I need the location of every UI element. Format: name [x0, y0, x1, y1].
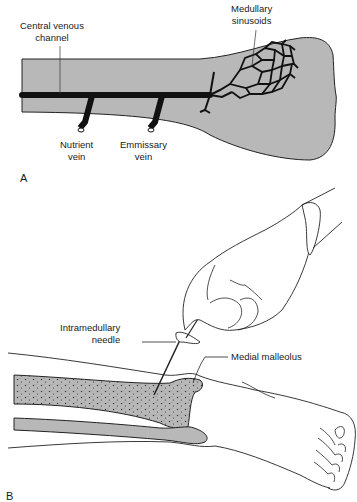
nutrient-vein-opening: [78, 128, 84, 132]
panel-label-a: A: [20, 172, 27, 184]
label-nutrient-vein: Nutrient vein: [60, 139, 93, 163]
gloved-hand: [183, 205, 311, 330]
label-intramedullary-needle: Intramedullary needle: [60, 322, 120, 346]
label-emmissary-vein: Emmissary vein: [120, 139, 167, 163]
arm-line-top: [302, 188, 335, 205]
leg-lower-outline: [8, 441, 330, 488]
label-medullary-sinusoids: Medullary sinusoids: [231, 3, 272, 27]
toes: [242, 382, 346, 482]
panel-label-b: B: [6, 490, 13, 502]
emissary-vein-opening: [148, 128, 154, 132]
label-central-venous-channel: Central venous channel: [20, 20, 84, 44]
label-medial-malleolus: Medial malleolus: [231, 351, 302, 363]
